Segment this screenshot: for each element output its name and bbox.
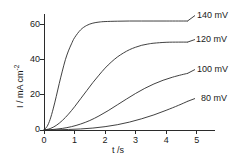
series-line-140mv xyxy=(44,21,188,130)
y-axis-title-exponent: -2 xyxy=(13,65,20,71)
chart-figure: I / mA cm-2 t /s 140 mV 120 mV 100 mV 80… xyxy=(0,0,251,161)
y-tick-label: 40 xyxy=(18,55,40,64)
series-label-80mv: 80 mV xyxy=(201,94,227,103)
series-line-100mv xyxy=(44,73,188,130)
leader-line-80mv xyxy=(188,99,195,102)
y-axis-ticks xyxy=(40,25,44,130)
leader-line-120mv xyxy=(188,40,195,43)
x-tick-label: 4 xyxy=(156,136,176,145)
leader-line-140mv xyxy=(188,16,195,22)
series-label-140mv: 140 mV xyxy=(197,11,228,20)
x-axis-ticks xyxy=(44,130,197,134)
x-tick-label: 2 xyxy=(95,136,115,145)
series-label-120mv: 120 mV xyxy=(196,35,227,44)
x-tick-label: 3 xyxy=(126,136,146,145)
x-tick-label: 1 xyxy=(65,136,85,145)
x-tick-label: 5 xyxy=(187,136,207,145)
series-line-120mv xyxy=(44,42,188,130)
series-leader-lines xyxy=(188,16,195,102)
y-axis-title: I / mA cm-2 xyxy=(14,65,25,108)
y-tick-label: 60 xyxy=(18,20,40,29)
x-axis-title: t /s xyxy=(112,146,124,155)
x-tick-label: 0 xyxy=(34,136,54,145)
data-series-group xyxy=(44,21,188,130)
y-tick-label: 20 xyxy=(18,90,40,99)
series-label-100mv: 100 mV xyxy=(197,65,228,74)
y-tick-label: 0 xyxy=(18,125,40,134)
leader-line-100mv xyxy=(188,70,195,74)
